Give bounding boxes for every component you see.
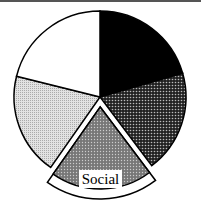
pie-chart: Social — [0, 0, 201, 214]
social-label-box: Social — [79, 170, 122, 188]
social-label: Social — [82, 171, 120, 187]
